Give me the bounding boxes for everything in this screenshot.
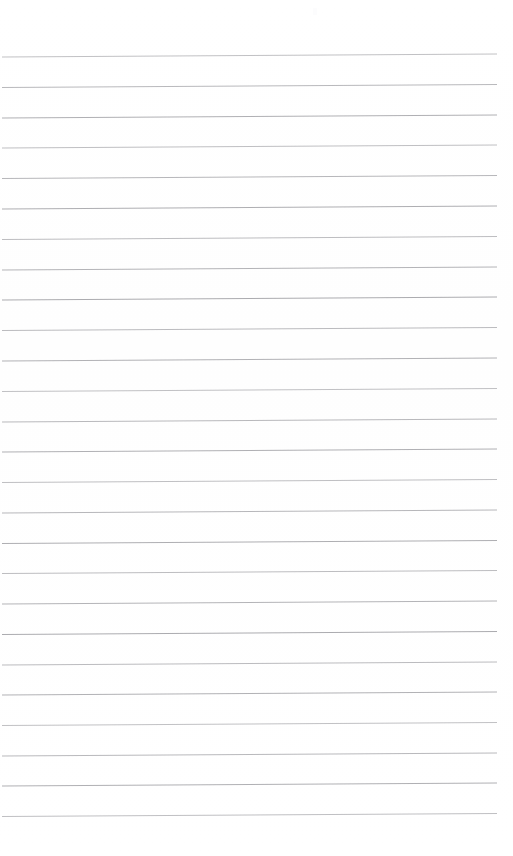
paper-background (0, 0, 513, 856)
lined-paper-page (0, 0, 513, 856)
scan-speck-artifact (313, 8, 317, 15)
